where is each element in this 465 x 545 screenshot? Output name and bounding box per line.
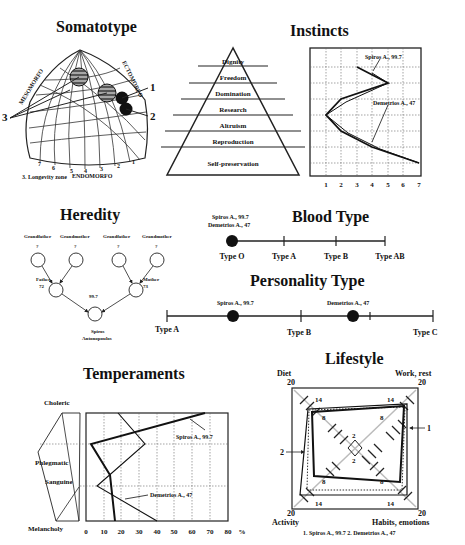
lifestyle-legend: 1. Spiros A., 99.7 2. Demetrios A., 47 <box>303 530 396 536</box>
svg-text:Type C: Type C <box>413 328 438 337</box>
svg-text:40: 40 <box>154 528 162 536</box>
blood-type-scale: Type O Type A Type B Type AB <box>205 232 455 272</box>
svg-text:3: 3 <box>100 166 103 172</box>
svg-text:Type B: Type B <box>324 252 349 261</box>
paternal-grandfather-node <box>31 253 45 267</box>
father-node <box>49 283 63 297</box>
svg-text:Demetrios A., 47: Demetrios A., 47 <box>327 300 369 306</box>
pyramid-level: Reproduction <box>212 138 253 146</box>
svg-text:72: 72 <box>39 284 45 289</box>
lifestyle-axis-habits: Habits, emotions <box>372 518 429 527</box>
svg-text:20: 20 <box>118 528 126 536</box>
personality-type-title: Personality Type <box>250 272 365 290</box>
svg-text:14: 14 <box>315 396 323 404</box>
svg-text:Melancholy: Melancholy <box>28 525 63 533</box>
svg-text:Spiros A., 99.7: Spiros A., 99.7 <box>217 300 254 306</box>
maternal-grandfather-node <box>112 253 126 267</box>
svg-text:1: 1 <box>324 181 328 189</box>
svg-text:7: 7 <box>38 161 41 167</box>
svg-text:2: 2 <box>117 163 120 169</box>
svg-text:14: 14 <box>387 500 395 508</box>
instincts-title: Instincts <box>290 22 349 40</box>
svg-text:Demetrios A., 47: Demetrios A., 47 <box>150 492 192 498</box>
instincts-label-spiros: Spiros A., 99.7 <box>365 54 402 60</box>
child-node <box>88 307 102 321</box>
svg-text:6: 6 <box>52 165 55 171</box>
marker-1-label: 1 <box>150 81 156 93</box>
svg-text:3: 3 <box>355 181 359 189</box>
lifestyle-title: Lifestyle <box>325 350 384 368</box>
lifestyle-radar: 14 14 14 14 8 8 8 8 2 2 1 2 <box>280 382 465 517</box>
temperaments-title: Temperaments <box>83 365 185 383</box>
svg-text:Spiros: Spiros <box>91 329 105 334</box>
temperaments-chart: Choleric Phlegmatic Sanguine Melancholy … <box>0 395 260 535</box>
instincts-pyramid: Dignity Freedom Domination Research Altr… <box>165 45 305 180</box>
svg-text:8: 8 <box>380 414 384 422</box>
svg-text:Type A: Type A <box>272 252 296 261</box>
svg-text:%: % <box>239 528 246 536</box>
pyramid-level: Domination <box>215 90 251 98</box>
svg-text:Grandfather: Grandfather <box>103 234 131 239</box>
svg-text:8: 8 <box>322 414 326 422</box>
svg-text:Grandmother: Grandmother <box>142 234 173 239</box>
svg-text:?: ? <box>36 244 39 249</box>
pyramid-level: Altruism <box>220 122 247 130</box>
lifestyle-axis-work-rest: Work, rest <box>395 369 431 378</box>
lifestyle-axis-activity: Activity <box>272 518 299 527</box>
svg-text:0: 0 <box>84 528 88 536</box>
svg-text:10: 10 <box>101 528 109 536</box>
svg-text:Choleric: Choleric <box>44 399 70 407</box>
heredity-tree: Grandfather Grandmother Grandfather Gran… <box>0 230 175 340</box>
lifestyle-axis-diet: Diet <box>277 369 291 378</box>
heredity-title: Heredity <box>60 206 120 224</box>
maternal-grandmother-node <box>150 253 164 267</box>
svg-text:7: 7 <box>417 181 421 189</box>
svg-text:73: 73 <box>143 284 149 289</box>
svg-text:Type A: Type A <box>155 325 179 334</box>
svg-text:Type O: Type O <box>220 252 245 261</box>
blood-type-subject2: Demetrios A., 47 <box>208 222 250 228</box>
svg-text:50: 50 <box>171 528 179 536</box>
svg-text:60: 60 <box>189 528 197 536</box>
svg-text:Type AB: Type AB <box>375 252 405 261</box>
svg-text:14: 14 <box>387 396 395 404</box>
pyramid-level: Freedom <box>220 74 247 82</box>
svg-text:Antonopoulos: Antonopoulos <box>82 336 112 341</box>
personality-marker-spiros <box>227 310 239 322</box>
svg-text:8: 8 <box>380 478 384 486</box>
svg-text:2: 2 <box>352 457 356 465</box>
marker-2-label: 2 <box>150 110 156 122</box>
endomorph-axis-label: ENDOMORFO <box>72 173 113 179</box>
marker-3-label: 3 <box>2 111 8 123</box>
svg-text:Grandfather: Grandfather <box>24 234 52 239</box>
svg-text:?: ? <box>117 244 120 249</box>
mother-node <box>129 283 143 297</box>
svg-text:6: 6 <box>401 181 405 189</box>
svg-text:4: 4 <box>84 168 87 174</box>
somatotype-title: Somatotype <box>56 18 137 36</box>
svg-text:?: ? <box>74 244 77 249</box>
paternal-grandmother-node <box>69 253 83 267</box>
svg-text:Sanguine: Sanguine <box>45 478 73 486</box>
longevity-zone-note: 3. Longevity zone <box>22 174 67 180</box>
personality-type-scale: Spiros A., 99.7 Demetrios A., 47 Type A … <box>155 296 465 346</box>
blood-type-title: Blood Type <box>292 208 369 226</box>
instincts-chart: Spiros A., 99.7 Demetrios A., 47 1 2 3 4… <box>310 45 460 195</box>
somatotype-diagram: 3 1 2 MESOMORFO ECTOMORFO ENDOMORFO 765 … <box>0 40 160 180</box>
pyramid-level: Research <box>219 106 247 114</box>
svg-text:8: 8 <box>322 478 326 486</box>
pyramid-level: Dignity <box>222 58 245 66</box>
svg-text:70: 70 <box>207 528 215 536</box>
svg-text:80: 80 <box>225 528 233 536</box>
svg-text:?: ? <box>155 244 158 249</box>
blood-type-subject1: Spiros A., 99.7 <box>212 214 249 220</box>
personality-marker-demetrios <box>347 310 359 322</box>
svg-text:Grandmother: Grandmother <box>60 234 91 239</box>
lifestyle-arrow-1-label: 1 <box>427 424 431 433</box>
instincts-label-demetrios: Demetrios A., 47 <box>373 100 415 106</box>
svg-text:14: 14 <box>315 500 323 508</box>
svg-text:5: 5 <box>70 168 73 174</box>
lifestyle-arrow-2-label: 2 <box>280 448 284 457</box>
svg-text:2: 2 <box>339 181 343 189</box>
pyramid-level: Self-preservation <box>207 160 258 168</box>
